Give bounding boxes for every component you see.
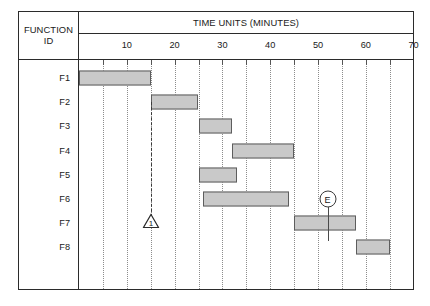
- row-label-f7: F7: [59, 218, 70, 228]
- axis-tick-mark: [318, 60, 319, 65]
- axis-tick-label: 70: [408, 40, 418, 50]
- axis-tick-mark: [151, 60, 152, 65]
- axis-tick-mark: [103, 60, 104, 65]
- task-bar-f1[interactable]: [79, 71, 151, 86]
- axis-tick-mark: [222, 60, 223, 65]
- gridline: [246, 60, 247, 289]
- row-label-f1: F1: [59, 73, 70, 83]
- task-bar-f7[interactable]: [294, 216, 356, 231]
- axis-tick-mark: [199, 60, 200, 65]
- axis-tick-label: 40: [265, 40, 275, 50]
- gridline: [390, 60, 391, 289]
- axis-tick-mark: [270, 60, 271, 65]
- gridline: [103, 60, 104, 289]
- event-marker-circle[interactable]: E: [319, 191, 336, 208]
- milestone-drop-line: [151, 102, 152, 217]
- svg-text:1: 1: [148, 219, 153, 228]
- axis-tick-mark: [127, 60, 128, 65]
- task-bar-f3[interactable]: [199, 119, 232, 134]
- gridline: [294, 60, 295, 289]
- gridline: [270, 60, 271, 289]
- time-axis-title: TIME UNITS (MINUTES): [79, 12, 413, 34]
- axis-tick-mark: [366, 60, 367, 65]
- task-bar-f4[interactable]: [232, 143, 294, 158]
- axis-tick-mark: [342, 60, 343, 65]
- gridline: [127, 60, 128, 289]
- axis-tick-label: 60: [361, 40, 371, 50]
- row-label-f5: F5: [59, 170, 70, 180]
- function-id-header-line1: FUNCTION: [24, 24, 73, 35]
- row-label-f8: F8: [59, 242, 70, 252]
- axis-tick-label: 50: [313, 40, 323, 50]
- row-label-f4: F4: [59, 146, 70, 156]
- axis-tick-label: 20: [169, 40, 179, 50]
- gridline: [318, 60, 319, 289]
- axis-tick-mark: [246, 60, 247, 65]
- axis-tick-label: 10: [122, 40, 132, 50]
- row-label-f2: F2: [59, 97, 70, 107]
- task-bar-f5[interactable]: [199, 167, 237, 182]
- gantt-plot-area: 1E: [79, 60, 413, 289]
- function-id-header: FUNCTION ID: [19, 12, 79, 60]
- task-bar-f6[interactable]: [203, 192, 289, 207]
- time-axis-scale: 10203040506070: [79, 34, 413, 60]
- axis-tick-mark: [294, 60, 295, 65]
- axis-tick-mark: [390, 60, 391, 65]
- task-bar-f2[interactable]: [151, 95, 199, 110]
- gantt-chart-frame: FUNCTION ID TIME UNITS (MINUTES) 1020304…: [18, 11, 414, 290]
- function-id-column: F1F2F3F4F5F6F7F8: [19, 60, 79, 289]
- axis-tick-mark: [175, 60, 176, 65]
- row-label-f6: F6: [59, 194, 70, 204]
- row-label-f3: F3: [59, 121, 70, 131]
- gridline: [342, 60, 343, 289]
- axis-tick-label: 30: [217, 40, 227, 50]
- milestone-triangle-icon[interactable]: 1: [142, 213, 159, 233]
- function-id-header-line2: ID: [44, 35, 54, 46]
- task-bar-f8[interactable]: [356, 240, 389, 255]
